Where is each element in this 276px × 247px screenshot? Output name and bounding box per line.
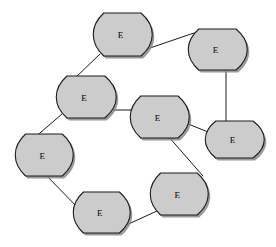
entity-node-lower-right[interactable]: E: [150, 173, 210, 218]
nodes-layer: EEEEEEEE: [15, 13, 266, 236]
entity-node-upper-left[interactable]: E: [56, 76, 118, 121]
entity-diagram: EEEEEEEE: [0, 0, 276, 247]
entity-node-middle-right[interactable]: E: [205, 121, 266, 161]
entity-node-shape[interactable]: [93, 13, 152, 56]
entity-node-shape[interactable]: [130, 96, 189, 138]
entity-node-shape[interactable]: [73, 192, 130, 233]
entity-node-shape[interactable]: [56, 76, 116, 118]
diagram-canvas: EEEEEEEE: [0, 0, 276, 247]
entity-node-shape[interactable]: [188, 29, 247, 70]
entity-node-shape[interactable]: [205, 121, 264, 158]
edge-center-to-lower-right: [168, 136, 203, 176]
entity-node-left[interactable]: E: [15, 134, 75, 179]
entity-node-bottom[interactable]: E: [73, 192, 132, 236]
entity-node-shape[interactable]: [150, 173, 208, 215]
entity-node-top[interactable]: E: [93, 13, 154, 59]
entity-node-shape[interactable]: [15, 134, 73, 176]
entity-node-center[interactable]: E: [130, 96, 191, 141]
entity-node-top-right[interactable]: E: [188, 29, 249, 73]
